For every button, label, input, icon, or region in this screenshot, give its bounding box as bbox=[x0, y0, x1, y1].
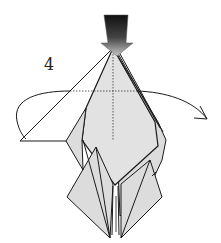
origami-diagram bbox=[0, 0, 221, 243]
push-arrow-icon bbox=[101, 15, 133, 56]
model-body bbox=[66, 48, 166, 238]
